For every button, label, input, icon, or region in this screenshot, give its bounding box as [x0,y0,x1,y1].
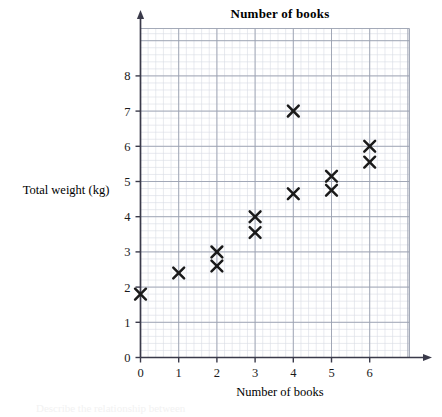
y-tick-label: 8 [124,69,130,83]
y-tick-label: 6 [124,140,130,154]
y-tick-label: 0 [124,351,130,365]
x-tick-label: 1 [176,366,182,380]
tick-labels: 0123456780123456 [124,69,373,379]
y-tick-label: 1 [124,316,130,330]
grid-minor [141,29,410,358]
x-tick-label: 3 [252,366,258,380]
footer-note: Describe the relationship between [36,402,436,414]
y-tick-label: 3 [124,245,130,259]
scatter-chart: Number of books Total weight (kg) Number… [0,0,442,417]
y-tick-label: 7 [124,105,130,119]
plot-area: 0123456780123456 [0,0,442,417]
x-tick-label: 0 [137,366,143,380]
y-tick-label: 5 [124,175,130,189]
y-tick-label: 2 [124,281,130,295]
x-tick-label: 2 [214,366,220,380]
x-tick-label: 6 [367,366,373,380]
x-tick-label: 4 [290,366,297,380]
axes [136,10,433,363]
y-tick-label: 4 [124,210,131,224]
x-tick-label: 5 [328,366,334,380]
